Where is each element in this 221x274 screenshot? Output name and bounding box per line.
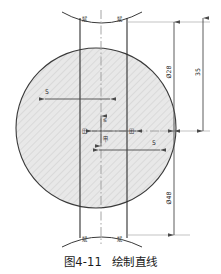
center-marker-top-label: ᓬ — [103, 117, 107, 123]
dimension-label-diameter-28-top: Ø28 — [165, 66, 172, 79]
top-arc — [62, 12, 142, 23]
figure-caption: 图4-11 绘制直线 — [0, 248, 221, 274]
technical-drawing-figure: 5 5 Ø28 35 Ø48 田 田 — [0, 0, 221, 274]
dimension-label-diameter-48-bottom: Ø48 — [165, 192, 172, 205]
center-marker-right-label: 田 — [129, 128, 134, 135]
dimension-label-upper-5: 5 — [45, 88, 49, 95]
bottom-arc — [62, 237, 142, 247]
caption-number: 图4-11 — [64, 253, 102, 269]
center-marker-left-label: 田 — [82, 128, 87, 135]
circle-hatch — [16, 48, 176, 208]
main-circle-group — [16, 48, 176, 208]
dimension-label-height-35: 35 — [194, 68, 201, 76]
dimension-label-lower-5: 5 — [152, 139, 156, 146]
center-marker-bottom-label: 甲 — [103, 136, 108, 143]
cad-drawing-canvas: 5 5 Ø28 35 Ø48 田 田 — [0, 0, 221, 248]
caption-title: 绘制直线 — [112, 253, 157, 269]
dimension-height-35: 35 — [194, 18, 203, 131]
arc-label-top-right: 斌 — [117, 15, 123, 23]
arc-label-bottom-left: 斌 — [82, 235, 88, 243]
